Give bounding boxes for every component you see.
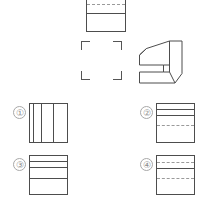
option-view-2[interactable] — [156, 103, 195, 143]
option-number-3[interactable]: ③ — [13, 158, 26, 171]
view-horizontal-line-1 — [157, 109, 194, 110]
view-horizontal-line-3 — [30, 178, 67, 179]
bracket-corner-bottom-left — [81, 71, 90, 80]
view-horizontal-line-3 — [157, 125, 194, 126]
bracket-corner-bottom-right — [113, 71, 122, 80]
missing-view-placeholder — [81, 41, 122, 80]
exercise-figure-canvas: ①②③④ — [0, 0, 207, 205]
view-horizontal-line-2 — [157, 115, 194, 116]
view-horizontal-line-1 — [30, 161, 67, 162]
option-number-4[interactable]: ④ — [140, 158, 153, 171]
bracket-corner-top-left — [81, 41, 90, 50]
iso-outline — [140, 41, 183, 83]
view-horizontal-line-1 — [87, 4, 125, 5]
option-view-4[interactable] — [156, 155, 195, 195]
view-horizontal-line-1 — [157, 162, 194, 163]
option-view-3[interactable] — [29, 155, 68, 195]
view-vertical-line-1 — [33, 104, 34, 142]
isometric-solid-drawing — [138, 39, 183, 85]
option-number-1[interactable]: ① — [13, 106, 26, 119]
view-horizontal-line-3 — [157, 178, 194, 179]
view-vertical-line-2 — [41, 104, 42, 142]
view-horizontal-line-2 — [157, 168, 194, 169]
option-view-1[interactable] — [29, 103, 68, 143]
view-horizontal-line-2 — [30, 167, 67, 168]
given-orthographic-view — [86, 0, 126, 32]
view-vertical-line-3 — [53, 104, 54, 142]
bracket-corner-top-right — [113, 41, 122, 50]
option-number-2[interactable]: ② — [140, 106, 153, 119]
view-horizontal-line-2 — [87, 13, 125, 14]
